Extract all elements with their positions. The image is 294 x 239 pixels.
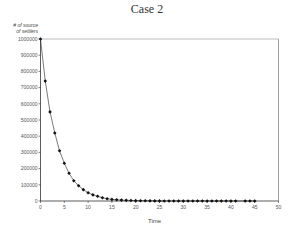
data-point-marker [134, 199, 138, 203]
data-point-marker [63, 161, 67, 165]
plot-frame [41, 39, 279, 201]
data-point-marker [196, 199, 200, 203]
x-tick-label: 25 [157, 204, 163, 210]
data-point-marker [158, 199, 162, 203]
data-point-marker [224, 199, 228, 203]
y-axis-ticks: 0100000200000300000400000500000600000700… [18, 36, 40, 204]
y-tick-label: 1000000 [18, 36, 38, 42]
data-point-marker [182, 199, 186, 203]
data-point-marker [172, 199, 176, 203]
data-point-marker [253, 199, 257, 203]
data-point-marker [58, 149, 62, 153]
data-point-marker [220, 199, 224, 203]
y-tick-label: 700000 [21, 84, 38, 90]
x-tick-label: 15 [109, 204, 115, 210]
data-point-marker [229, 199, 233, 203]
data-point-marker [43, 79, 47, 83]
x-tick-label: 40 [228, 204, 234, 210]
data-point-marker [210, 199, 214, 203]
data-point-marker [205, 199, 209, 203]
data-point-marker [148, 199, 152, 203]
x-tick-label: 20 [133, 204, 139, 210]
data-point-marker [248, 199, 252, 203]
data-point-marker [53, 131, 57, 135]
data-point-marker [124, 199, 128, 203]
x-tick-label: 0 [39, 204, 42, 210]
data-point-marker [215, 199, 219, 203]
y-tick-label: 800000 [21, 68, 38, 74]
data-point-marker [201, 199, 205, 203]
data-point-marker [139, 199, 143, 203]
y-tick-label: 900000 [21, 52, 38, 58]
data-point-marker [162, 199, 166, 203]
data-point-marker [67, 171, 71, 175]
data-point-marker [86, 191, 90, 195]
data-point-marker [167, 199, 171, 203]
data-point-marker [101, 196, 105, 200]
y-tick-label: 600000 [21, 101, 38, 107]
data-point-marker [143, 199, 147, 203]
x-tick-label: 30 [181, 204, 187, 210]
data-point-marker [243, 199, 247, 203]
data-point-marker [48, 110, 52, 114]
data-series [39, 37, 257, 203]
x-tick-label: 5 [63, 204, 66, 210]
x-tick-label: 10 [85, 204, 91, 210]
data-point-marker [234, 199, 238, 203]
y-tick-label: 300000 [21, 149, 38, 155]
x-tick-label: 50 [276, 204, 282, 210]
y-tick-label: 400000 [21, 133, 38, 139]
data-point-marker [39, 37, 43, 41]
plot-area: 0100000200000300000400000500000600000700… [0, 0, 294, 239]
series-line [41, 39, 255, 201]
data-point-marker [177, 199, 181, 203]
x-tick-label: 45 [252, 204, 258, 210]
data-point-marker [129, 199, 133, 203]
data-point-marker [153, 199, 157, 203]
y-tick-label: 500000 [21, 117, 38, 123]
data-point-marker [91, 193, 95, 197]
y-tick-label: 200000 [21, 165, 38, 171]
data-point-marker [186, 199, 190, 203]
x-tick-label: 35 [204, 204, 210, 210]
y-tick-label: 0 [35, 198, 38, 204]
data-point-marker [191, 199, 195, 203]
y-tick-label: 100000 [21, 182, 38, 188]
data-point-marker [105, 197, 109, 201]
data-point-marker [96, 195, 100, 199]
